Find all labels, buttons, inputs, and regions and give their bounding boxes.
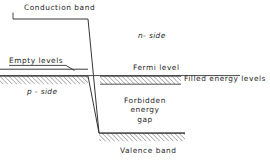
label-forbidden-gap-line3: gap bbox=[110, 115, 180, 124]
label-forbidden-gap-line2: energy bbox=[110, 105, 180, 114]
valence-band-hatch bbox=[99, 133, 185, 141]
label-conduction-band: Conduction band bbox=[24, 3, 95, 12]
label-filled-energy-levels: Filled energy levels bbox=[184, 74, 266, 83]
label-n-side: n- side bbox=[138, 31, 166, 40]
n-side-filled-levels-hatch bbox=[100, 76, 181, 84]
p-side-filled-levels-hatch bbox=[0, 76, 88, 84]
label-forbidden-energy-gap: Forbidden energy gap bbox=[110, 96, 180, 124]
label-p-side: p - side bbox=[27, 87, 57, 96]
label-n-side-text: n- side bbox=[138, 31, 166, 40]
label-fermi-level: Fermi level bbox=[133, 63, 180, 72]
energy-band-diagram: Conduction band n- side Empty levels Fer… bbox=[0, 0, 270, 161]
empty-levels-leader bbox=[66, 65, 75, 70]
label-empty-levels: Empty levels bbox=[9, 56, 63, 65]
label-p-side-text: p - side bbox=[27, 87, 57, 96]
label-valence-band: Valence band bbox=[120, 146, 176, 155]
label-forbidden-gap-line1: Forbidden bbox=[110, 96, 180, 105]
